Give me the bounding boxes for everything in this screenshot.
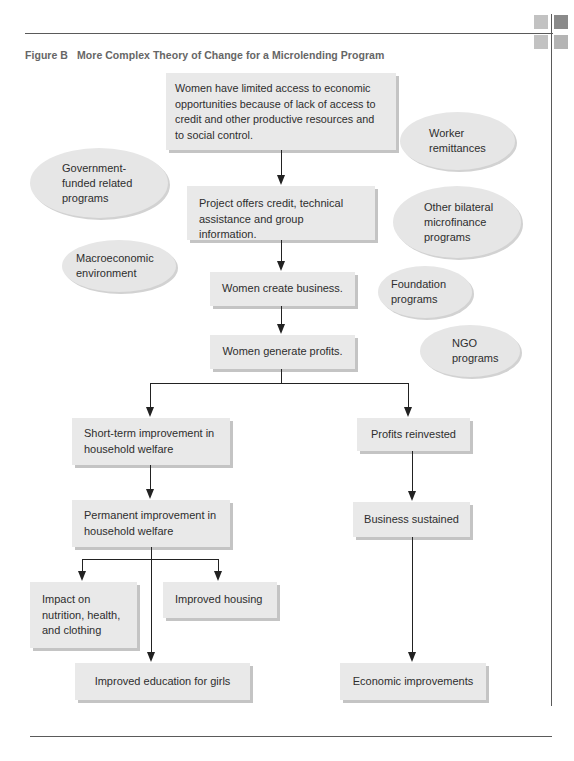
node-improved-education: Improved education for girls (75, 663, 250, 700)
connector-branch-right (408, 383, 409, 408)
connector-permanent-education (151, 547, 152, 653)
node-economic-improvements: Economic improvements (340, 663, 486, 700)
arrow-head-icon (78, 571, 86, 581)
arrow-head-icon (404, 407, 412, 417)
arrow-head-icon (146, 407, 154, 417)
node-permanent: Permanent improvement in household welfa… (72, 500, 230, 547)
connector-branch-left (150, 383, 151, 408)
arrow-head-icon (147, 652, 155, 662)
connector-permanent-horizontal (82, 559, 218, 560)
connector-business-profits (281, 306, 282, 325)
node-project: Project offers credit, technical assista… (187, 186, 375, 240)
node-root: Women have limited access to economic op… (166, 73, 396, 150)
node-business-sustained: Business sustained (353, 502, 470, 537)
connector-profits-branch (281, 369, 282, 384)
right-rule (551, 14, 552, 706)
arrow-head-icon (277, 324, 285, 334)
top-rule (25, 33, 553, 34)
factor-ngo: NGO programs (420, 325, 520, 377)
connector-sustained-economic (412, 537, 413, 653)
factor-other-bilateral: Other bilateral microfinance programs (393, 186, 521, 258)
node-create-business: Women create business. (210, 272, 355, 306)
factor-foundation: Foundation programs (378, 266, 472, 318)
factor-macroeconomic: Macroeconomic environment (62, 240, 176, 292)
node-improved-housing: Improved housing (163, 582, 277, 618)
connector-branch-horizontal (150, 383, 409, 384)
figure-title: Figure BMore Complex Theory of Change fo… (25, 49, 384, 61)
connector-reinvested-sustained (412, 451, 413, 492)
arrow-head-icon (408, 491, 416, 501)
factor-worker-remittances: Worker remittances (400, 112, 515, 170)
node-generate-profits: Women generate profits. (210, 335, 355, 369)
figure-label: Figure B (25, 49, 68, 61)
connector-project-business (281, 240, 282, 262)
arrow-head-icon (408, 652, 416, 662)
connector-root-project (281, 150, 282, 176)
arrow-head-icon (277, 261, 285, 271)
node-impact-nutrition: Impact on nutrition, health, and clothin… (30, 582, 137, 648)
node-profits-reinvested: Profits reinvested (357, 418, 470, 451)
figure-caption: More Complex Theory of Change for a Micr… (77, 49, 384, 61)
corner-square-2 (554, 15, 568, 29)
arrow-head-icon (277, 175, 285, 185)
bottom-rule (30, 736, 552, 737)
corner-square-4 (554, 35, 568, 49)
node-short-term: Short-term improvement in household welf… (72, 418, 230, 465)
corner-square-3 (534, 35, 548, 49)
connector-short-permanent (150, 465, 151, 490)
arrow-head-icon (214, 571, 222, 581)
arrow-head-icon (146, 489, 154, 499)
corner-square-1 (534, 15, 548, 29)
factor-government-programs: Government- funded related programs (30, 148, 168, 218)
